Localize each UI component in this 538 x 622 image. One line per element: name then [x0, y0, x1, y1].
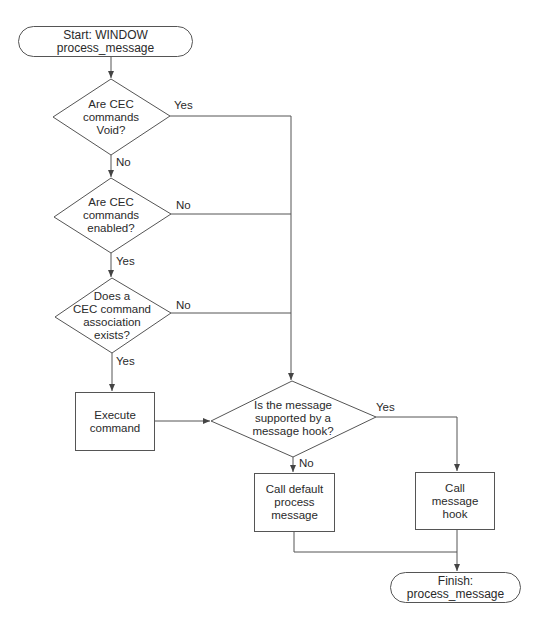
- call-message-hook-box: Call message hook: [415, 472, 495, 530]
- label-assoc-yes: Yes: [116, 355, 135, 367]
- label-enabled-no: No: [176, 199, 191, 211]
- edge-hook-yes: [376, 417, 457, 471]
- label-hook-no: No: [299, 457, 314, 469]
- finish-terminator: Finish: process_message: [390, 572, 521, 603]
- edge-void-yes: [170, 116, 291, 380]
- label-enabled-yes: Yes: [116, 255, 135, 267]
- start-terminator: Start: WINDOW process_message: [18, 26, 193, 57]
- decision-enabled-label: Are CEC commands enabled?: [58, 188, 164, 242]
- label-void-no: No: [116, 156, 131, 168]
- label-hook-yes: Yes: [376, 401, 395, 413]
- decision-void-label: Are CEC commands Void?: [58, 90, 164, 144]
- decision-hook-label: Is the message supported by a message ho…: [222, 392, 364, 444]
- label-assoc-no: No: [176, 299, 191, 311]
- decision-assoc-label: Does a CEC command association exists?: [58, 286, 166, 346]
- edge-default-to-merge: [294, 531, 457, 552]
- call-default-process-message-box: Call default process message: [254, 473, 335, 532]
- execute-command-box: Execute command: [75, 392, 155, 451]
- label-void-yes: Yes: [174, 99, 193, 111]
